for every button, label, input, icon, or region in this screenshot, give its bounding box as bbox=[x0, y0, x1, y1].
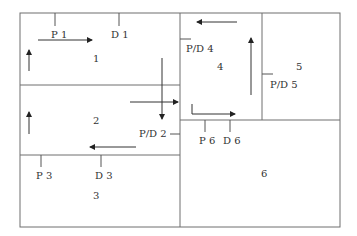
department-labels: 1 2 3 4 5 6 bbox=[93, 53, 302, 201]
arrow-elbow-right-icon bbox=[192, 104, 235, 114]
station-labels: P 1 D 1 P/D 2 P 3 D 3 P/D 4 P/D 5 P 6 D … bbox=[36, 29, 298, 181]
department-4: 4 bbox=[217, 61, 223, 72]
facility-layout-diagram: P 1 D 1 P/D 2 P 3 D 3 P/D 4 P/D 5 P 6 D … bbox=[0, 0, 357, 236]
label-pd4: P/D 4 bbox=[186, 43, 214, 54]
label-pd5: P/D 5 bbox=[270, 79, 298, 90]
walls bbox=[20, 13, 340, 227]
label-p6: P 6 bbox=[199, 135, 215, 146]
department-2: 2 bbox=[93, 115, 99, 126]
label-d1: D 1 bbox=[111, 29, 129, 40]
label-p1: P 1 bbox=[51, 29, 67, 40]
label-d3: D 3 bbox=[95, 170, 113, 181]
label-d6: D 6 bbox=[223, 135, 241, 146]
department-6: 6 bbox=[261, 168, 267, 179]
label-p3: P 3 bbox=[36, 170, 52, 181]
department-1: 1 bbox=[93, 53, 99, 64]
label-pd2: P/D 2 bbox=[139, 128, 167, 139]
department-5: 5 bbox=[296, 61, 302, 72]
department-3: 3 bbox=[93, 190, 99, 201]
